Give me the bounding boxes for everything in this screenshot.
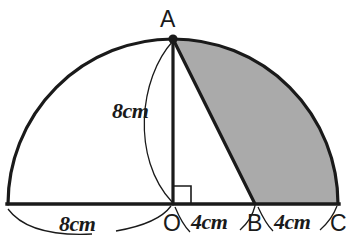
point-label-B: B bbox=[247, 212, 262, 235]
dimension-label-left-radius: 8cm bbox=[59, 213, 95, 235]
dimension-label-OB: 4cm bbox=[191, 211, 227, 233]
dimension-arc-AO bbox=[144, 41, 173, 202]
shaded-segment-region bbox=[173, 39, 338, 204]
geometry-diagram: A O B C 8cm 8cm 4cm 4cm bbox=[0, 0, 359, 252]
point-label-O: O bbox=[163, 212, 181, 235]
point-label-C: C bbox=[330, 212, 347, 235]
right-angle-marker-icon bbox=[173, 186, 191, 204]
point-label-A: A bbox=[160, 8, 175, 31]
dimension-label-AO: 8cm bbox=[112, 100, 148, 122]
point-A-dot bbox=[168, 34, 177, 43]
dimension-label-BC: 4cm bbox=[274, 211, 310, 233]
